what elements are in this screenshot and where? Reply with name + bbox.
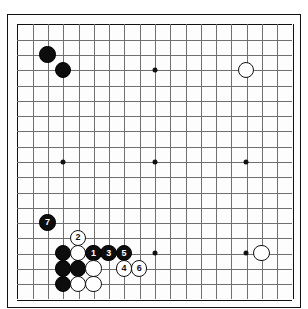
grid-line-vertical bbox=[170, 24, 171, 299]
stone-move-number: 1 bbox=[91, 248, 96, 257]
stone-white[interactable] bbox=[85, 276, 101, 292]
stone-black-move-7[interactable]: 7 bbox=[39, 214, 55, 230]
stone-white-move-4[interactable]: 4 bbox=[116, 260, 132, 276]
grid-line-horizontal bbox=[17, 208, 292, 209]
stone-move-number: 4 bbox=[121, 263, 126, 272]
grid-line-vertical bbox=[201, 24, 202, 299]
stone-black[interactable] bbox=[55, 276, 71, 292]
stone-white[interactable] bbox=[70, 245, 86, 261]
stone-black-move-3[interactable]: 3 bbox=[100, 245, 116, 261]
stone-move-number: 7 bbox=[45, 218, 50, 227]
stone-black[interactable] bbox=[55, 260, 71, 276]
star-point bbox=[244, 251, 249, 256]
star-point bbox=[152, 251, 157, 256]
stone-move-number: 6 bbox=[137, 263, 142, 272]
stone-black[interactable] bbox=[55, 62, 71, 78]
grid-line-horizontal bbox=[17, 300, 292, 301]
stone-white[interactable] bbox=[253, 245, 269, 261]
stone-move-number: 3 bbox=[106, 248, 111, 257]
grid-line-horizontal bbox=[17, 193, 292, 194]
stone-black-move-1[interactable]: 1 bbox=[85, 245, 101, 261]
stone-white[interactable] bbox=[238, 62, 254, 78]
star-point bbox=[244, 159, 249, 164]
go-diagram-container: 7213546 bbox=[0, 0, 308, 309]
grid-line-horizontal bbox=[17, 177, 292, 178]
grid-line-horizontal bbox=[17, 238, 292, 239]
grid-line-vertical bbox=[277, 24, 278, 299]
stone-white-move-2[interactable]: 2 bbox=[70, 230, 86, 246]
grid-line-vertical bbox=[186, 24, 187, 299]
stone-move-number: 2 bbox=[76, 233, 81, 242]
grid-line-vertical bbox=[216, 24, 217, 299]
star-point bbox=[152, 159, 157, 164]
stone-white[interactable] bbox=[70, 276, 86, 292]
stone-black-move-5[interactable]: 5 bbox=[116, 245, 132, 261]
stone-black[interactable] bbox=[55, 245, 71, 261]
stone-white[interactable] bbox=[85, 260, 101, 276]
go-board[interactable]: 7213546 bbox=[7, 14, 301, 308]
grid-line-vertical bbox=[293, 24, 294, 299]
star-point bbox=[60, 159, 65, 164]
star-point bbox=[152, 67, 157, 72]
stone-black[interactable] bbox=[39, 46, 55, 62]
stone-black[interactable] bbox=[70, 260, 86, 276]
grid-line-vertical bbox=[231, 24, 232, 299]
stone-move-number: 5 bbox=[121, 248, 126, 257]
stone-white-move-6[interactable]: 6 bbox=[131, 260, 147, 276]
grid-line-horizontal bbox=[17, 223, 292, 224]
